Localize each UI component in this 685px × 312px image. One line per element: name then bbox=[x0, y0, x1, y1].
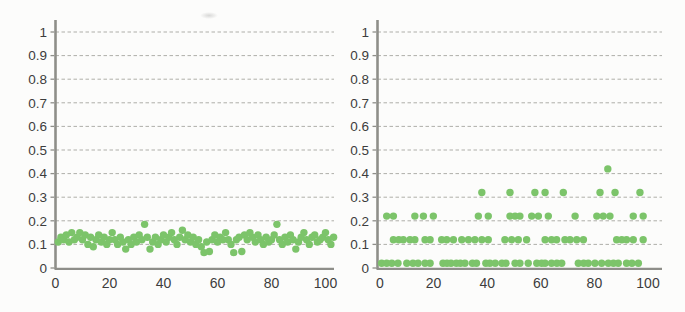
svg-text:0.9: 0.9 bbox=[350, 48, 369, 63]
right-scatter-plot: 00.10.20.30.40.50.60.70.80.9102040608010… bbox=[350, 20, 662, 291]
x-axis-tick-labels: 020406080100 bbox=[52, 275, 338, 291]
y-axis-tick-labels: 00.10.20.30.40.50.60.70.80.91 bbox=[28, 25, 47, 276]
svg-text:100: 100 bbox=[636, 275, 660, 291]
svg-text:100: 100 bbox=[314, 275, 338, 291]
scatter-plots-svg: 00.10.20.30.40.50.60.70.80.9102040608010… bbox=[0, 0, 685, 312]
svg-text:0.7: 0.7 bbox=[28, 96, 47, 111]
y-axis-tick-labels: 00.10.20.30.40.50.60.70.80.91 bbox=[350, 25, 369, 276]
left-scatter-plot: 00.10.20.30.40.50.60.70.80.9102040608010… bbox=[28, 20, 337, 291]
gridlines bbox=[56, 32, 335, 244]
svg-text:0.3: 0.3 bbox=[28, 190, 47, 205]
svg-text:0.6: 0.6 bbox=[350, 119, 369, 134]
svg-text:80: 80 bbox=[587, 275, 603, 291]
svg-text:0.4: 0.4 bbox=[350, 166, 369, 181]
svg-text:0.5: 0.5 bbox=[350, 143, 369, 158]
svg-text:0: 0 bbox=[376, 275, 384, 291]
svg-text:80: 80 bbox=[264, 275, 280, 291]
svg-text:1: 1 bbox=[361, 25, 369, 40]
svg-text:20: 20 bbox=[102, 275, 118, 291]
svg-text:0.4: 0.4 bbox=[28, 166, 47, 181]
svg-text:0.5: 0.5 bbox=[28, 143, 47, 158]
svg-text:0: 0 bbox=[52, 275, 60, 291]
data-points bbox=[378, 165, 647, 267]
svg-text:0.2: 0.2 bbox=[28, 214, 47, 229]
x-axis-tick-labels: 020406080100 bbox=[376, 275, 660, 291]
svg-text:0.2: 0.2 bbox=[350, 214, 369, 229]
svg-text:60: 60 bbox=[210, 275, 226, 291]
svg-text:0.6: 0.6 bbox=[28, 119, 47, 134]
svg-text:1: 1 bbox=[39, 25, 47, 40]
svg-text:0.1: 0.1 bbox=[350, 237, 369, 252]
svg-text:0.3: 0.3 bbox=[350, 190, 369, 205]
svg-text:0.8: 0.8 bbox=[28, 72, 47, 87]
svg-text:0: 0 bbox=[361, 261, 369, 276]
svg-text:40: 40 bbox=[156, 275, 172, 291]
data-points bbox=[55, 221, 338, 257]
svg-text:0.8: 0.8 bbox=[350, 72, 369, 87]
svg-text:40: 40 bbox=[479, 275, 495, 291]
svg-text:20: 20 bbox=[426, 275, 442, 291]
svg-text:0: 0 bbox=[39, 261, 47, 276]
svg-text:0.7: 0.7 bbox=[350, 96, 369, 111]
svg-text:0.9: 0.9 bbox=[28, 48, 47, 63]
svg-text:0.1: 0.1 bbox=[28, 237, 47, 252]
figure-canvas: 00.10.20.30.40.50.60.70.80.9102040608010… bbox=[0, 0, 685, 312]
axes bbox=[373, 20, 663, 269]
svg-text:60: 60 bbox=[533, 275, 549, 291]
